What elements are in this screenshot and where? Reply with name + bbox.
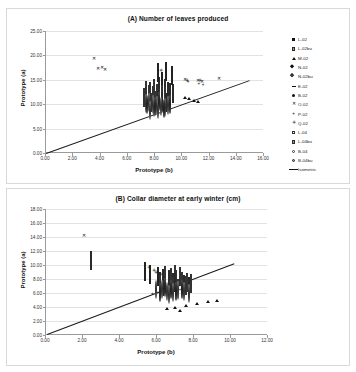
legend-marker-triangle-filled-icon — [289, 54, 298, 63]
y-tick-label: 18.00 — [30, 207, 42, 212]
legend-marker-line-icon — [289, 165, 298, 174]
legend-marker-star-icon — [289, 119, 298, 128]
marker-star — [159, 68, 163, 73]
legend-item-b-02[interactable]: B-02 — [289, 91, 355, 100]
y-tick-label: 12.00 — [30, 249, 42, 254]
marker-square-half — [292, 47, 295, 50]
legend-label: B-02 — [298, 93, 307, 98]
x-tick-label: 8.00 — [149, 156, 158, 161]
marker-plus — [151, 292, 154, 297]
y-tick — [43, 251, 46, 252]
chart-a-y-axis — [45, 31, 46, 153]
marker-star — [198, 79, 202, 84]
x-tick-label: 2.00 — [77, 338, 86, 343]
y-tick — [43, 55, 46, 56]
marker-circle-half — [169, 95, 171, 114]
legend-item-o-02[interactable]: O-02 — [289, 100, 355, 109]
marker-cross-x — [292, 102, 296, 107]
y-tick-label: 2.00 — [33, 319, 42, 324]
y-tick — [43, 321, 46, 322]
legend-marker-cross-x-icon — [289, 100, 298, 109]
legend-item-b-04[interactable]: B-04 — [289, 147, 355, 156]
marker-circle-open — [177, 281, 179, 300]
legend-item-p-02[interactable]: P-02 — [289, 109, 355, 118]
gridline — [45, 251, 267, 252]
y-tick-label: 15.00 — [30, 77, 42, 82]
legend-marker-dash-icon — [289, 82, 298, 91]
y-tick-label: 5.00 — [33, 126, 42, 131]
chart-b-y-axis — [45, 209, 46, 335]
marker-square-half — [292, 140, 295, 143]
gridline — [45, 129, 263, 130]
gridline — [45, 209, 267, 210]
legend-item-l-02[interactable]: L-02 — [289, 35, 355, 44]
legend-label: Isometric — [298, 167, 316, 172]
x-tick-label: 12.00 — [261, 338, 273, 343]
marker-cross-x — [82, 234, 86, 239]
legend-item-n-02bu[interactable]: N-02bu — [289, 72, 355, 81]
figure-container: (A) Number of leaves produced 0.005.0010… — [0, 0, 356, 372]
x-tick-label: 14.00 — [230, 156, 242, 161]
marker-dash — [292, 86, 296, 87]
data-point — [82, 234, 86, 239]
y-tick — [43, 129, 46, 130]
y-tick-label: 4.00 — [33, 305, 42, 310]
marker-circle-open — [172, 283, 174, 302]
data-point — [185, 78, 189, 83]
y-tick — [43, 104, 46, 105]
legend-marker-plus-icon — [289, 110, 298, 119]
marker-diamond-half — [290, 73, 294, 77]
legend-label: O-02 — [298, 102, 308, 107]
gridline — [45, 237, 267, 238]
x-tick-label: 10.00 — [175, 156, 187, 161]
marker-triangle-filled — [195, 285, 199, 305]
marker-square-half — [90, 251, 92, 270]
marker-star — [147, 266, 151, 271]
legend-item-q-02[interactable]: Q-02 — [289, 119, 355, 128]
legend-item-l-02bu[interactable]: L-02bu — [289, 44, 355, 53]
marker-square-open — [190, 274, 192, 293]
y-tick — [43, 209, 46, 210]
legend-marker-circle-half-icon — [289, 156, 298, 165]
y-tick — [43, 307, 46, 308]
x-tick-label: 10.00 — [224, 338, 236, 343]
chart-panel-b: (B) Collar diameter at early winter (cm)… — [6, 188, 350, 366]
y-tick — [43, 279, 46, 280]
legend-item-b-04bu[interactable]: B-04bu — [289, 156, 355, 165]
x-tick-label: 6.00 — [151, 338, 160, 343]
marker-circle-half — [292, 159, 295, 162]
legend-label: E-02 — [298, 84, 307, 89]
legend-item-n-02[interactable]: N-02 — [289, 63, 355, 72]
gridline — [45, 307, 267, 308]
marker-square-open — [292, 131, 295, 134]
legend-item-l-04[interactable]: L-04 — [289, 128, 355, 137]
legend-item-isometric[interactable]: Isometric — [289, 165, 355, 174]
marker-triangle-filled — [196, 83, 200, 103]
marker-plus — [292, 112, 295, 117]
data-point — [159, 68, 163, 73]
chart-b-title: (B) Collar diameter at early winter (cm) — [7, 195, 349, 202]
legend-label: M-02 — [298, 56, 308, 61]
legend-marker-circle-filled-icon — [289, 91, 298, 100]
legend-label: L-02bu — [298, 46, 312, 51]
marker-triangle-filled — [215, 282, 219, 302]
marker-square-half — [172, 84, 174, 103]
marker-circle-half — [146, 95, 148, 114]
x-tick-label: 12.00 — [203, 156, 215, 161]
gridline — [45, 31, 263, 32]
legend-marker-square-open-icon — [289, 128, 298, 137]
marker-circle-half — [181, 280, 183, 299]
legend-item-l-04bu[interactable]: L-04bu — [289, 137, 355, 146]
x-tick-label: 4.00 — [95, 156, 104, 161]
y-tick-label: 25.00 — [30, 29, 42, 34]
legend-item-m-02[interactable]: M-02 — [289, 54, 355, 63]
marker-cross-x — [103, 68, 107, 73]
marker-diamond-half — [171, 66, 173, 85]
y-tick — [43, 265, 46, 266]
chart-a-x-axis-title: Prototype (b) — [45, 167, 263, 173]
legend-item-e-02[interactable]: E-02 — [289, 81, 355, 90]
chart-a-title: (A) Number of leaves produced — [7, 15, 349, 22]
y-tick-label: 20.00 — [30, 53, 42, 58]
data-point — [92, 57, 96, 62]
marker-square-open — [185, 276, 187, 295]
